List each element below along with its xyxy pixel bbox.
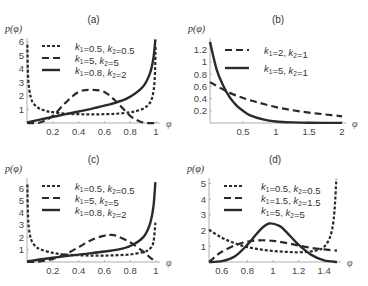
y-tick-label: 1 xyxy=(19,104,24,115)
y-tick-label: 4 xyxy=(19,207,24,218)
y-tick-label: 5 xyxy=(19,195,24,206)
y-axis-label: p(φ) xyxy=(187,23,206,35)
x-tick-label: 1 xyxy=(270,265,275,276)
legend-label: k1=5, k2=5 xyxy=(261,205,305,220)
legend-label: k1=5, k2=5 xyxy=(75,53,119,68)
x-tick-label: 1 xyxy=(273,126,278,137)
x-axis-label: φ xyxy=(166,257,172,268)
y-tick-label: 2 xyxy=(201,225,206,236)
y-tick-label: 0.6 xyxy=(194,81,207,92)
panel-b: 0.20.40.60.811.20.511.52p(φ)φ(b)k1=2, k2… xyxy=(187,14,358,137)
x-tick-label: 0.6 xyxy=(98,126,111,137)
legend: k1=2, k2=1k1=5, k2=1 xyxy=(225,45,308,78)
legend-label: k1=2, k2=1 xyxy=(264,45,308,60)
panel-title: (b) xyxy=(272,14,284,25)
y-tick-label: 4 xyxy=(201,194,206,205)
y-tick-label: 2 xyxy=(19,90,24,101)
x-tick-label: 0.5 xyxy=(236,126,249,137)
legend-label: k1=0.8, k2=2 xyxy=(75,65,127,80)
y-tick-label: 3 xyxy=(19,77,24,88)
legend-label: k1=5, k2=1 xyxy=(264,63,308,78)
y-tick-label: 1.2 xyxy=(194,44,207,55)
panel-title: (d) xyxy=(269,154,281,165)
x-tick-label: 0.8 xyxy=(124,265,137,276)
y-tick-label: 0.8 xyxy=(194,69,207,80)
x-axis-label: φ xyxy=(352,118,358,129)
y-tick-label: 1 xyxy=(201,241,206,252)
x-tick-label: 2 xyxy=(339,126,344,137)
panel-a: 1234560.20.40.60.81p(φ)φ(a)k1=0.5, k2=0.… xyxy=(4,14,172,137)
x-tick-label: 0.8 xyxy=(241,265,254,276)
y-tick-label: 3 xyxy=(19,219,24,230)
legend-label: k1=0.5, k2=0.5 xyxy=(75,41,135,56)
x-tick-label: 0.2 xyxy=(46,126,59,137)
x-tick-label: 1.2 xyxy=(292,265,305,276)
legend-label: k1=0.5, k2=0.5 xyxy=(75,181,135,196)
legend: k1=0.5, k2=0.5k1=5, k2=5k1=0.8, k2=2 xyxy=(42,181,135,220)
y-axis-label: p(φ) xyxy=(4,163,23,175)
x-axis-label: φ xyxy=(166,118,172,129)
y-tick-label: 6 xyxy=(19,36,24,47)
y-tick-label: 0.4 xyxy=(194,93,207,104)
panel-title: (a) xyxy=(87,14,99,25)
y-tick-label: 1 xyxy=(19,244,24,255)
y-tick-label: 3 xyxy=(201,209,206,220)
y-tick-label: 4 xyxy=(19,63,24,74)
panel-title: (c) xyxy=(88,154,100,165)
x-tick-label: 1.4 xyxy=(318,265,331,276)
y-tick-label: 6 xyxy=(19,183,24,194)
x-tick-label: 1.5 xyxy=(302,126,315,137)
x-tick-label: 0.2 xyxy=(46,265,59,276)
y-axis-label: p(φ) xyxy=(4,23,23,35)
panel-d: 123450.60.811.21.4p(φ)φ(d)k1=0.5, k2=0.5… xyxy=(186,154,353,276)
legend-label: k1=5, k2=5 xyxy=(75,193,119,208)
panel-c: 1234560.20.40.60.81p(φ)φ(c)k1=0.5, k2=0.… xyxy=(4,154,172,276)
x-axis-label: φ xyxy=(347,257,353,268)
x-tick-label: 0.8 xyxy=(124,126,137,137)
x-tick-label: 0.6 xyxy=(215,265,228,276)
series-line-solid xyxy=(209,223,337,262)
legend-label: k1=0.8, k2=2 xyxy=(75,205,127,220)
y-axis-label: p(φ) xyxy=(186,163,205,175)
y-tick-label: 5 xyxy=(201,178,206,189)
y-tick-label: 0.2 xyxy=(194,105,207,116)
x-tick-label: 0.6 xyxy=(98,265,111,276)
x-tick-label: 1 xyxy=(153,265,158,276)
x-tick-label: 0.4 xyxy=(72,126,85,137)
y-tick-label: 2 xyxy=(19,232,24,243)
y-tick-label: 5 xyxy=(19,50,24,61)
legend: k1=0.5, k2=0.5k1=5, k2=5k1=0.8, k2=2 xyxy=(42,41,135,80)
legend-label: k1=0.5, k2=0.5 xyxy=(261,181,321,196)
x-tick-label: 1 xyxy=(153,126,158,137)
legend: k1=0.5, k2=0.5k1=1.5, k2=1.5k1=5, k2=5 xyxy=(224,181,321,220)
figure-canvas: 1234560.20.40.60.81p(φ)φ(a)k1=0.5, k2=0.… xyxy=(0,0,368,286)
x-tick-label: 0.4 xyxy=(72,265,85,276)
y-tick-label: 1 xyxy=(202,56,207,67)
